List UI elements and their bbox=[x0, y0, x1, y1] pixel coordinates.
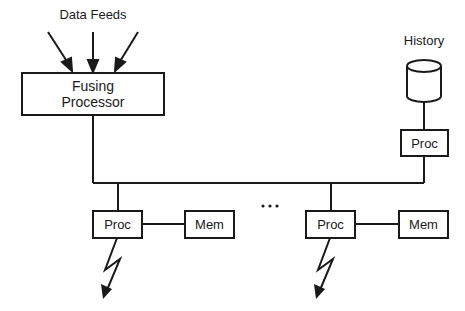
architecture-diagram: Data Feeds Fusing Processor History Proc… bbox=[0, 0, 465, 311]
fusing-processor-line1: Fusing bbox=[72, 78, 114, 94]
mem-box-2: Mem bbox=[398, 210, 449, 239]
proc-box-2: Proc bbox=[305, 210, 356, 239]
data-feeds-label: Data Feeds bbox=[45, 8, 141, 23]
history-proc-box: Proc bbox=[400, 129, 449, 157]
fusing-processor-box: Fusing Processor bbox=[21, 72, 165, 116]
mem-box-1: Mem bbox=[184, 210, 235, 239]
data-feed-arrows bbox=[48, 32, 138, 72]
history-label: History bbox=[394, 34, 454, 49]
proc-box-1: Proc bbox=[92, 210, 143, 239]
fusing-processor-line2: Processor bbox=[61, 94, 124, 110]
history-database-icon bbox=[407, 60, 441, 102]
ellipsis-icon bbox=[261, 204, 278, 207]
